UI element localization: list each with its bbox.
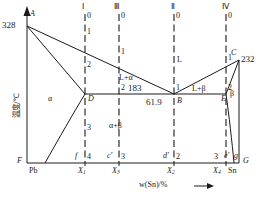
y-tick-183: 183 [128,84,142,93]
y-axis-label: 温度/℃ [10,93,21,118]
cooling-curve-label-I: Ⅰ [82,3,84,11]
solidus-left [27,26,85,94]
y-tick-328: 328 [2,21,16,30]
x-tick-label-X1: X1 [78,167,86,176]
stage-I-2: 2 [87,61,91,69]
stage-II-0: 0 [176,12,180,20]
point-label-D: D [88,95,94,103]
point-label-g: g [234,152,238,160]
cooling-curve-label-II: Ⅱ [171,3,175,11]
stage-III-0: 0 [121,12,125,20]
solvus-left [45,94,85,163]
point-label-c-prime: c' [107,152,112,160]
region-label-L: L [177,56,182,64]
x-tick-label-X4: X4 [213,167,221,176]
point-label-B: B [177,97,182,105]
region-label-L-alpha: L+α [119,74,133,82]
stage-IV-0: 0 [228,12,232,20]
stage-IV-3: 3 [214,153,218,161]
x-axis-label: w(Sn)/% [139,181,167,189]
cooling-curve-label-III: Ⅲ [114,3,120,11]
stage-I-3: 3 [87,124,91,132]
x-tick-label-X3: X3 [112,167,120,176]
point-label-G: G [243,157,249,165]
region-label-alpha-beta: α+β [109,122,122,130]
y-tick-232: 232 [241,55,255,64]
point-label-E: E [221,95,226,103]
stage-II-1: 1 [176,84,180,92]
point-label-e-prime: e' [224,152,229,160]
stage-III-1: 1 [121,48,125,56]
stage-III-3: 3 [121,153,125,161]
point-label-f: f [75,152,77,160]
x-axis-label-arrow [194,183,214,189]
stage-III-2: 2 [121,84,125,92]
point-label-d-prime: d' [163,152,169,160]
phase-diagram-figure: 温度/℃ w(Sn)/% 328 183 232 61.9 Ⅰ Ⅲ Ⅱ Ⅳ 0 … [0,0,261,197]
region-label-alpha: α [48,95,52,103]
x-tick-label-Sn: Sn [228,167,236,175]
region-label-L-beta: L+β [192,85,205,93]
cooling-curve-label-IV: Ⅳ [222,3,229,11]
liquidus-left [27,26,174,94]
stage-I-1: 1 [87,28,91,36]
stage-I-4: 4 [87,153,91,161]
x-tick-label-X2: X2 [167,167,175,176]
point-label-A: A [30,10,35,18]
x-tick-label-Pb: Pb [29,167,37,175]
point-label-F: F [17,157,22,165]
stage-II-2: 2 [176,153,180,161]
eutectic-composition-label: 61.9 [146,98,162,107]
point-label-C: C [231,49,236,57]
stage-I-0: 0 [87,12,91,20]
region-label-beta: β [230,90,234,98]
